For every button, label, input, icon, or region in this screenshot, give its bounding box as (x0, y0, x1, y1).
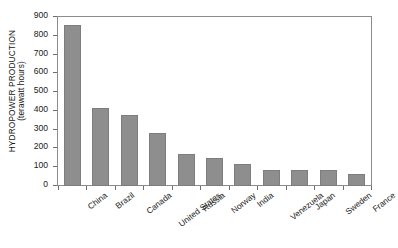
bar-slot (143, 17, 171, 186)
y-axis-tick-label: 400 (34, 104, 48, 114)
bar-slot (115, 17, 143, 186)
x-axis-label: China (85, 190, 108, 211)
bar (92, 108, 109, 186)
y-axis-tick-label: 0 (43, 179, 48, 189)
x-axis-labels: ChinaBrazilCanadaUnited StatesRussiaNorw… (58, 190, 371, 246)
bar (206, 158, 223, 186)
bar-slot (86, 17, 114, 186)
x-axis-label: Canada (144, 190, 173, 216)
bar-slot (343, 17, 371, 186)
y-axis-tick-label: 500 (34, 85, 48, 95)
y-axis-tick-label: 200 (34, 141, 48, 151)
bars-layer (58, 17, 371, 186)
x-axis-label: Norway (229, 190, 258, 215)
bar (263, 170, 280, 186)
bar (320, 170, 337, 186)
bar-slot (200, 17, 228, 186)
y-axis-tick-label: 300 (34, 123, 48, 133)
bar (149, 133, 166, 186)
bar (234, 164, 251, 186)
bar-slot (229, 17, 257, 186)
bar-slot (257, 17, 285, 186)
y-axis-ticks: 0100200300400500600700800900 (0, 16, 57, 186)
y-axis-tick-label: 800 (34, 29, 48, 39)
y-axis-tick-label: 100 (34, 160, 48, 170)
bar-slot (58, 17, 86, 186)
x-axis-label: France (371, 190, 398, 214)
x-axis-tick-mark (371, 186, 372, 190)
y-axis-tick-label: 600 (34, 66, 48, 76)
bar-slot (172, 17, 200, 186)
bar-slot (286, 17, 314, 186)
x-axis-label: India (255, 190, 275, 209)
bar (121, 115, 138, 186)
bar (178, 154, 195, 186)
bar-slot (314, 17, 342, 186)
bar (348, 174, 365, 186)
bar (64, 25, 81, 186)
y-axis-tick-label: 700 (34, 48, 48, 58)
y-axis-tick-label: 900 (34, 10, 48, 20)
x-axis-label: Brazil (114, 190, 137, 211)
bar (291, 170, 308, 186)
x-axis-label: Sweden (343, 190, 373, 217)
